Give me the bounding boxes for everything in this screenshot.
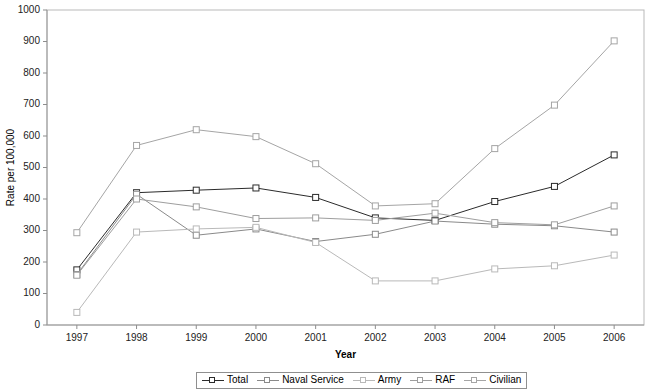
y-axis-tick-label: 500 bbox=[23, 161, 40, 172]
chart-legend: TotalNaval ServiceArmyRAFCivilian bbox=[196, 372, 527, 389]
y-axis-tick-label: 300 bbox=[23, 224, 40, 235]
series-line-civilian bbox=[77, 41, 614, 233]
x-axis-tick-label: 2005 bbox=[543, 332, 566, 343]
x-axis-tick-label: 2004 bbox=[484, 332, 507, 343]
data-point bbox=[551, 222, 557, 228]
data-point bbox=[611, 229, 617, 235]
y-axis-tick-label: 0 bbox=[34, 319, 40, 330]
data-point bbox=[611, 38, 617, 44]
series-line-total bbox=[77, 155, 614, 270]
data-point bbox=[492, 199, 498, 205]
legend-label: Civilian bbox=[489, 374, 521, 386]
data-point bbox=[611, 252, 617, 258]
chart-title bbox=[0, 0, 651, 3]
data-point bbox=[432, 201, 438, 207]
legend-label: RAF bbox=[435, 374, 455, 386]
data-point bbox=[492, 146, 498, 152]
y-axis-tick-label: 800 bbox=[23, 67, 40, 78]
legend-marker-icon bbox=[464, 376, 486, 385]
legend-marker-icon bbox=[410, 376, 432, 385]
data-point bbox=[193, 232, 199, 238]
y-axis-tick-label: 400 bbox=[23, 193, 40, 204]
data-point bbox=[74, 309, 80, 315]
legend-item-civilian[interactable]: Civilian bbox=[464, 374, 521, 386]
data-point bbox=[372, 278, 378, 284]
y-axis-tick-label: 100 bbox=[23, 287, 40, 298]
legend-label: Total bbox=[227, 374, 248, 386]
data-point bbox=[372, 231, 378, 237]
data-point bbox=[372, 217, 378, 223]
y-axis-title: Rate per 100,000 bbox=[5, 128, 16, 206]
data-point bbox=[551, 263, 557, 269]
data-point bbox=[74, 230, 80, 236]
x-axis-tick-label: 2001 bbox=[305, 332, 328, 343]
data-point bbox=[313, 161, 319, 167]
data-point bbox=[193, 187, 199, 193]
y-axis-tick-label: 1000 bbox=[18, 4, 41, 15]
x-axis-tick-label: 1998 bbox=[125, 332, 148, 343]
data-point bbox=[193, 226, 199, 232]
x-axis-tick-label: 1997 bbox=[66, 332, 89, 343]
legend-marker-icon bbox=[353, 376, 375, 385]
legend-label: Naval Service bbox=[282, 374, 344, 386]
y-axis-tick-label: 200 bbox=[23, 256, 40, 267]
data-point bbox=[253, 216, 259, 222]
y-axis-tick-label: 700 bbox=[23, 98, 40, 109]
x-axis-tick-label: 2000 bbox=[245, 332, 268, 343]
data-point bbox=[253, 185, 259, 191]
data-point bbox=[313, 239, 319, 245]
chart-container: 01002003004005006007008009001000Rate per… bbox=[0, 0, 651, 389]
x-axis-tick-label: 2003 bbox=[424, 332, 447, 343]
data-point bbox=[432, 210, 438, 216]
data-point bbox=[134, 229, 140, 235]
data-point bbox=[193, 127, 199, 133]
data-point bbox=[313, 215, 319, 221]
data-point bbox=[313, 194, 319, 200]
x-axis-tick-label: 1999 bbox=[185, 332, 208, 343]
data-point bbox=[611, 203, 617, 209]
data-point bbox=[432, 278, 438, 284]
series-line-army bbox=[77, 227, 614, 312]
data-point bbox=[551, 183, 557, 189]
y-axis-tick-label: 900 bbox=[23, 35, 40, 46]
data-point bbox=[492, 266, 498, 272]
data-point bbox=[551, 102, 557, 108]
data-point bbox=[193, 204, 199, 210]
series-line-raf bbox=[77, 199, 614, 275]
data-point bbox=[253, 224, 259, 230]
chart-plot-area: 01002003004005006007008009001000Rate per… bbox=[0, 0, 651, 389]
data-point bbox=[492, 220, 498, 226]
data-point bbox=[432, 218, 438, 224]
legend-marker-icon bbox=[257, 376, 279, 385]
legend-item-raf[interactable]: RAF bbox=[410, 374, 455, 386]
x-axis-tick-label: 2006 bbox=[603, 332, 626, 343]
data-point bbox=[611, 152, 617, 158]
data-point bbox=[134, 196, 140, 202]
series-line-naval-service bbox=[77, 194, 614, 274]
legend-label: Army bbox=[378, 374, 401, 386]
data-point bbox=[372, 203, 378, 209]
data-point bbox=[253, 134, 259, 140]
x-axis-title: Year bbox=[335, 349, 356, 360]
legend-item-naval-service[interactable]: Naval Service bbox=[257, 374, 344, 386]
data-point bbox=[134, 142, 140, 148]
y-axis-tick-label: 600 bbox=[23, 130, 40, 141]
legend-item-army[interactable]: Army bbox=[353, 374, 401, 386]
x-axis-tick-label: 2002 bbox=[364, 332, 387, 343]
legend-marker-icon bbox=[202, 376, 224, 385]
legend-item-total[interactable]: Total bbox=[202, 374, 248, 386]
data-point bbox=[74, 272, 80, 278]
